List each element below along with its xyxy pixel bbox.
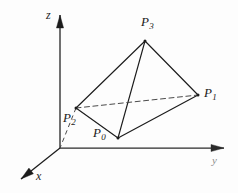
vertex-point-p0 [117, 137, 120, 140]
vertex-label-subscript: 3 [149, 21, 154, 31]
vertex-label-base: P [141, 14, 149, 29]
vertex-label-subscript: 0 [101, 132, 106, 142]
edge-p3-p0 [118, 41, 145, 138]
axis-arrowhead-y [211, 144, 224, 151]
tetrahedron-figure: P0P1P2P3 zyx [0, 0, 238, 193]
vertex-label-p3: P3 [141, 15, 154, 31]
vertex-label-subscript: 1 [212, 92, 217, 102]
vertex-label-p0: P0 [93, 126, 106, 142]
vertex-label-p1: P1 [204, 86, 217, 102]
axis-label-y: y [212, 155, 217, 166]
vertex-label-subscript: 2 [71, 117, 76, 127]
vertex-label-p2: P2 [63, 111, 76, 127]
vertex-point-p1 [197, 94, 200, 97]
vertex-label-base: P [204, 85, 212, 100]
axis-arrowhead-x [21, 168, 33, 179]
diagram-canvas [0, 0, 238, 193]
axis-label-x: x [36, 170, 41, 182]
tetrahedron-edges-group [76, 41, 198, 138]
edge-p2-p1 [76, 95, 198, 108]
vertex-label-base: P [63, 110, 71, 125]
edge-p3-p1 [145, 41, 198, 95]
vertex-point-p3 [144, 40, 147, 43]
vertex-label-base: P [93, 125, 101, 140]
axis-label-z: z [46, 9, 51, 21]
edge-p0-p1 [118, 95, 198, 138]
vertex-point-p2 [75, 107, 78, 110]
edge-p3-p2 [76, 41, 145, 108]
axis-arrowhead-z [56, 15, 63, 28]
